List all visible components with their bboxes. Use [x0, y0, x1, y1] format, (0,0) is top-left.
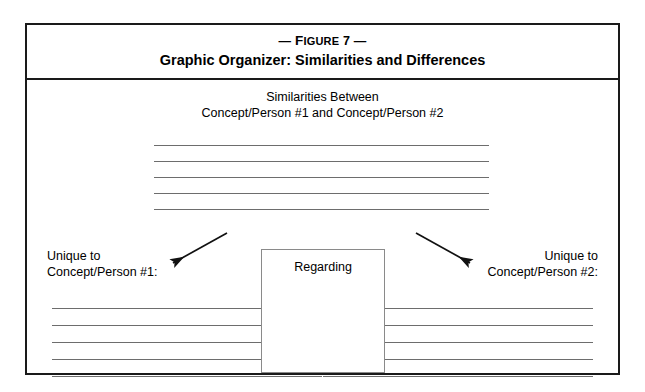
writing-line[interactable] [154, 178, 489, 194]
unique-right-label-line2: Concept/Person #2: [398, 264, 598, 280]
similarities-heading: Similarities Between Concept/Person #1 a… [27, 89, 618, 121]
figure-title: Graphic Organizer: Similarities and Diff… [160, 51, 486, 70]
figure-number: 7 [343, 34, 350, 48]
figure-dash-left: — [279, 34, 292, 48]
writing-line[interactable] [154, 130, 489, 146]
writing-line[interactable] [154, 194, 489, 210]
writing-line[interactable] [154, 162, 489, 178]
figure-word-initial: F [295, 33, 303, 48]
similarities-heading-line2: Concept/Person #1 and Concept/Person #2 [27, 105, 618, 121]
figure-frame: — Figure 7 — Graphic Organizer: Similari… [25, 23, 620, 375]
organizer-body: Similarities Between Concept/Person #1 a… [27, 80, 618, 377]
unique-right-label-line1: Unique to [398, 248, 598, 264]
unique-right-label: Unique to Concept/Person #2: [398, 248, 598, 280]
regarding-box[interactable]: Regarding [261, 249, 385, 373]
figure-number-label: — Figure 7 — [279, 33, 367, 49]
figure-word: Figure [295, 35, 339, 47]
figure-dash-right: — [354, 34, 367, 48]
figure-page: — Figure 7 — Graphic Organizer: Similari… [0, 0, 645, 392]
unique-left-label-line1: Unique to [47, 248, 247, 264]
unique-left-label: Unique to Concept/Person #1: [47, 248, 247, 280]
similarities-heading-line1: Similarities Between [27, 89, 618, 105]
writing-line[interactable] [154, 146, 489, 162]
regarding-label: Regarding [262, 259, 384, 275]
figure-title-band: — Figure 7 — Graphic Organizer: Similari… [27, 25, 618, 80]
similarities-writing-lines [154, 130, 489, 210]
unique-left-label-line2: Concept/Person #1: [47, 264, 247, 280]
